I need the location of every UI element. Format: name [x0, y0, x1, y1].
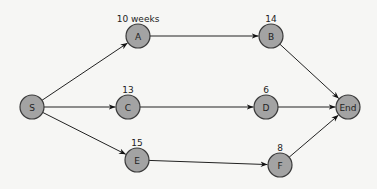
- duration-label: 10 weeks: [117, 14, 160, 24]
- node-a: A10 weeks: [117, 14, 160, 48]
- node-end: End: [336, 95, 360, 119]
- node-label: A: [135, 32, 142, 42]
- duration-label: 6: [263, 85, 269, 95]
- node-label: C: [125, 103, 131, 113]
- node-b: B14: [259, 14, 283, 48]
- edge-f-end: [289, 115, 338, 157]
- edge-s-a: [42, 43, 128, 100]
- node-c: C13: [116, 85, 140, 119]
- duration-label: 13: [122, 85, 133, 95]
- duration-label: 14: [265, 14, 277, 24]
- node-e: E15: [125, 138, 149, 172]
- node-label: D: [263, 103, 270, 113]
- duration-label: 15: [131, 138, 142, 148]
- node-label: End: [339, 103, 356, 113]
- edge-e-f: [149, 160, 268, 164]
- node-label: F: [277, 161, 282, 171]
- node-label: B: [268, 32, 274, 42]
- duration-label: 8: [277, 143, 283, 153]
- node-d: D6: [254, 85, 278, 119]
- edges-layer: [42, 36, 339, 165]
- edge-b-end: [280, 44, 339, 98]
- node-f: F8: [268, 143, 292, 177]
- node-label: E: [134, 156, 140, 166]
- nodes-layer: SA10 weeksB14C13D6E15F8End: [20, 14, 360, 177]
- network-diagram: SA10 weeksB14C13D6E15F8End: [0, 0, 377, 189]
- edge-s-e: [43, 112, 126, 154]
- node-s: S: [20, 95, 44, 119]
- node-label: S: [29, 103, 35, 113]
